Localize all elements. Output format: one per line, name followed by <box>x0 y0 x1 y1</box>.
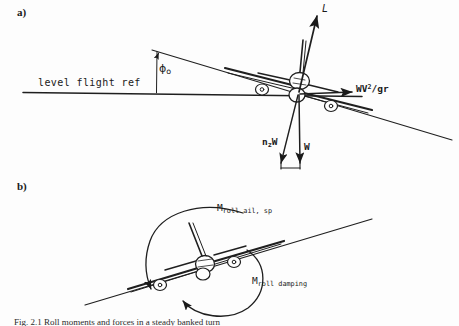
vertical-fin-b <box>189 223 202 256</box>
weight-label: W <box>304 142 310 152</box>
left-engine-a <box>256 84 269 95</box>
panel-label-a: a) <box>17 6 26 18</box>
left-engine-b <box>154 280 167 291</box>
damping-moment-subscript: roll damping <box>258 280 307 288</box>
panel-label-b: b) <box>17 180 27 192</box>
right-engine-b <box>228 257 241 268</box>
figure-artwork <box>0 0 459 326</box>
bank-angle-tick <box>157 52 158 93</box>
applied-moment-subscript: roll ail, sp <box>223 207 272 215</box>
right-wing-b <box>212 241 284 262</box>
normal-load-vector-arrow <box>281 95 298 163</box>
right-wing-edge-b <box>212 244 281 265</box>
centrifugal-base: WV <box>356 83 367 94</box>
bank-angle-label: ϕo <box>159 63 171 76</box>
right-engine-a <box>325 101 338 112</box>
level-flight-ref-label: level flight ref <box>38 78 141 88</box>
figure-page: a) b) level flight ref ϕo L WV2/gr nzW W… <box>0 0 459 326</box>
vertical-fin-a <box>300 40 303 72</box>
fuselage-lower-b <box>196 268 210 280</box>
applied-roll-moment-label: Mroll ail, sp <box>217 203 272 215</box>
centrifugal-force-label: WV2/gr <box>356 84 389 94</box>
weight-vector-arrow <box>299 95 300 163</box>
left-tailplane-b <box>165 261 196 270</box>
normal-load-suffix: W <box>272 136 278 147</box>
centrifugal-denominator: /gr <box>371 83 388 94</box>
normal-load-label: nzW <box>262 137 278 149</box>
figure-caption: Fig. 2.1 Roll moments and forces in a st… <box>14 317 220 326</box>
lift-vector-label: L <box>322 4 328 14</box>
panel-b-artwork <box>85 208 372 317</box>
centrifugal-force-arrow <box>300 92 352 94</box>
applied-roll-moment-arc <box>146 208 243 289</box>
left-wing-a <box>225 68 296 86</box>
roll-damping-moment-label: Mroll damping <box>252 276 307 288</box>
right-tailplane-a <box>305 84 338 92</box>
bank-angle-subscript: o <box>166 67 171 76</box>
